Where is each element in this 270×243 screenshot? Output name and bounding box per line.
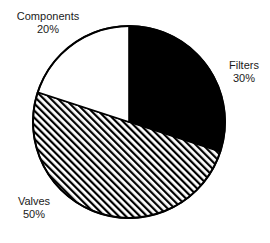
pie-label-filters: Filters 30%: [219, 59, 269, 85]
pie-label-filters-name: Filters: [219, 59, 269, 72]
pie-label-valves-name: Valves: [6, 195, 62, 208]
pie-label-valves-value: 50%: [6, 208, 62, 221]
pie-label-components-value: 20%: [6, 23, 90, 36]
pie-label-filters-value: 30%: [219, 72, 269, 85]
pie-label-components: Components 20%: [6, 10, 90, 36]
pie-label-valves: Valves 50%: [6, 195, 62, 221]
pie-label-components-name: Components: [6, 10, 90, 23]
pie-chart-page: Components 20% Filters 30% Valves 50%: [0, 0, 270, 243]
